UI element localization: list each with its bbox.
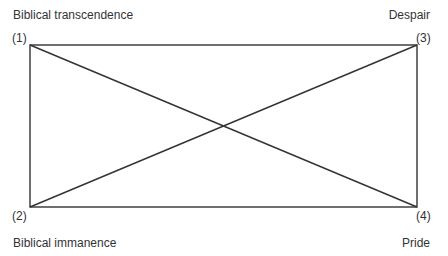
corner-label-4: Pride (402, 236, 430, 250)
corner-marker-3: (3) (416, 31, 431, 45)
corner-marker-4: (4) (416, 209, 431, 223)
corner-label-1: Biblical transcendence (13, 8, 133, 22)
corner-label-3: Despair (389, 8, 430, 22)
square-diagram (0, 0, 448, 256)
corner-marker-2: (2) (12, 209, 27, 223)
corner-label-2: Biblical immanence (13, 236, 116, 250)
corner-marker-1: (1) (12, 31, 27, 45)
